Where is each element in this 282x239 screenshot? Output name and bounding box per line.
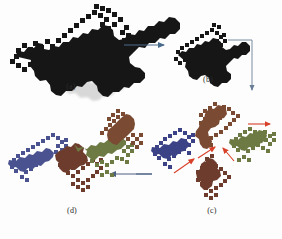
panel-a-fractal [10,4,180,101]
figure-canvas [0,0,282,239]
arrow-merge-3 [174,159,194,173]
panel-label-d: (d) [52,206,92,215]
panel-label-a: (a) [51,82,91,91]
panel-label-c: (c) [192,206,232,215]
fractal-construction-figure: (a) (b) (c) (d) [0,0,282,239]
panel-c-piece-bottom-darkbrown [196,154,231,200]
panel-label-b: (b) [188,75,228,84]
arrow-merge-4 [223,148,234,161]
panel-c-piece-right-green [229,127,276,162]
